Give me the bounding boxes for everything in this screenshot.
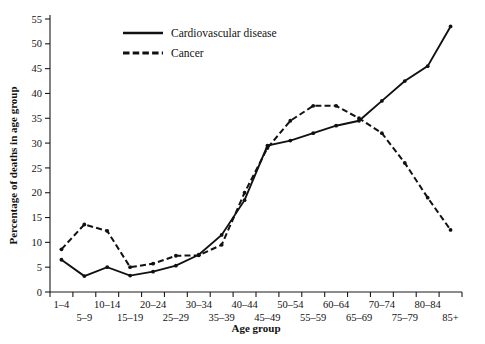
y-tick-label: 55 <box>32 14 43 25</box>
data-point <box>151 262 155 266</box>
data-point <box>174 264 178 268</box>
x-tick-label: 30–34 <box>186 299 213 310</box>
x-axis-title: Age group <box>232 322 281 334</box>
series-line-1 <box>61 26 450 276</box>
data-point <box>357 116 361 120</box>
data-point <box>128 274 132 278</box>
data-point <box>449 25 453 29</box>
data-point <box>105 229 109 233</box>
x-tick-label: 10–14 <box>94 299 121 310</box>
x-axis: 1–45–910–1415–1920–2425–2930–3435–3940–4… <box>50 292 462 323</box>
line-chart-svg: 0510152025303540455055 1–45–910–1415–192… <box>0 0 485 344</box>
y-tick-label: 35 <box>32 113 43 124</box>
data-point <box>60 247 64 251</box>
y-tick-label: 30 <box>32 138 43 149</box>
data-point <box>311 104 315 108</box>
data-point <box>288 119 292 123</box>
data-point <box>334 124 338 128</box>
y-axis-title: Percentage of deaths in age group <box>7 86 19 244</box>
y-tick-label: 45 <box>32 63 43 74</box>
data-point <box>403 161 407 165</box>
y-tick-label: 50 <box>32 38 43 49</box>
data-point <box>243 198 247 202</box>
x-tick-label: 80–84 <box>415 299 442 310</box>
x-tick-label: 5–9 <box>76 312 92 323</box>
data-point <box>311 131 315 135</box>
data-point <box>288 139 292 143</box>
data-point <box>380 131 384 135</box>
legend-label-1: Cardiovascular disease <box>171 27 277 39</box>
x-tick-label: 50–54 <box>277 299 304 310</box>
data-point <box>220 243 224 247</box>
x-tick-label: 55–59 <box>300 312 326 323</box>
y-tick-label: 20 <box>32 187 43 198</box>
x-tick-label: 65–69 <box>346 312 372 323</box>
x-tick-label: 15–19 <box>117 312 143 323</box>
x-tick-label: 75–79 <box>392 312 418 323</box>
series-line-2 <box>61 106 450 267</box>
y-tick-label: 40 <box>32 88 43 99</box>
y-tick-label: 10 <box>32 237 43 248</box>
data-point <box>151 270 155 274</box>
data-point <box>82 274 86 278</box>
y-tick-label: 15 <box>32 212 43 223</box>
y-tick-label: 5 <box>37 262 42 273</box>
data-point <box>128 265 132 269</box>
y-tick-label: 25 <box>32 163 43 174</box>
data-point <box>243 191 247 195</box>
y-axis: 0510152025303540455055 <box>32 14 51 298</box>
x-tick-label: 70–74 <box>369 299 396 310</box>
data-point <box>220 233 224 237</box>
x-tick-label: 85+ <box>442 312 459 323</box>
x-tick-label: 40–44 <box>231 299 258 310</box>
data-point <box>403 79 407 83</box>
y-tick-label: 0 <box>37 287 42 298</box>
data-point <box>426 196 430 200</box>
data-point <box>174 254 178 258</box>
data-point <box>334 104 338 108</box>
data-point <box>105 265 109 269</box>
data-point <box>449 228 453 232</box>
data-series-group <box>60 25 453 278</box>
x-tick-label: 25–29 <box>163 312 189 323</box>
data-point <box>60 258 64 262</box>
x-tick-label: 60–64 <box>323 299 350 310</box>
legend-label-2: Cancer <box>171 47 204 59</box>
chart-container: 0510152025303540455055 1–45–910–1415–192… <box>0 0 485 344</box>
x-tick-label: 1–4 <box>54 299 71 310</box>
x-tick-label: 20–24 <box>140 299 167 310</box>
data-point <box>426 64 430 68</box>
data-point <box>197 253 201 257</box>
data-point <box>266 146 270 150</box>
chart-legend: Cardiovascular diseaseCancer <box>123 27 277 59</box>
data-point <box>380 99 384 103</box>
data-point <box>82 223 86 227</box>
